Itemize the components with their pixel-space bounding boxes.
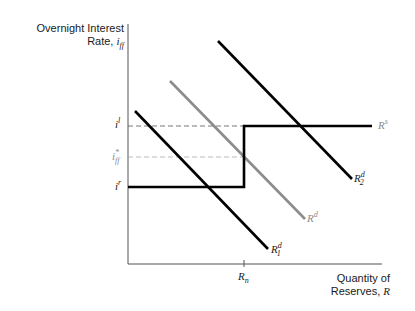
- ir-label: ir: [115, 180, 121, 193]
- rd-demand-curve: [170, 81, 305, 219]
- x-axis-title-line1: Quantity of: [300, 272, 390, 285]
- y-axis-title: Overnight Interest Rate, iff: [20, 22, 124, 48]
- y-axis-title-line1: Overnight Interest: [20, 22, 124, 35]
- r1d-demand-curve: [135, 111, 268, 249]
- x-axis-title-line2: Reserves, R: [300, 285, 390, 298]
- rs-supply-curve: [128, 126, 372, 187]
- y-axis-title-line2: Rate, iff: [20, 35, 124, 48]
- x-axis-symbol: R: [383, 285, 390, 297]
- x-axis-title-text: Reserves,: [331, 285, 384, 297]
- r2d-label: Rd2: [354, 172, 364, 185]
- il-label: il: [115, 118, 120, 131]
- r2d-demand-curve: [218, 41, 352, 179]
- y-axis-sub: ff: [120, 41, 124, 50]
- rn-label: Rn: [238, 270, 249, 283]
- rs-label: Rs: [378, 119, 388, 132]
- y-axis-title-text: Rate,: [87, 35, 116, 47]
- iff-star-label: i*ff: [112, 150, 120, 163]
- x-axis-title: Quantity of Reserves, R: [300, 272, 390, 298]
- rd-label: Rd: [307, 212, 318, 225]
- r1d-label: Rd1: [271, 243, 281, 256]
